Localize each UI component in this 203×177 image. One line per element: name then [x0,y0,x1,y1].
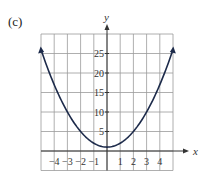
curve-arrow-right-icon [170,47,176,54]
x-axis-label: x [192,145,198,157]
x-tick-label: 4 [157,156,162,167]
y-tick-label: 15 [94,87,104,98]
y-axis-label: y [103,11,109,23]
x-tick-label: −1 [88,156,99,167]
x-tick-label: 1 [118,156,123,167]
y-tick-label: 5 [99,126,104,137]
parabola-chart: xy−4−3−2−11234510152025 [0,0,203,177]
y-tick-label: 25 [94,48,104,59]
x-tick-label: 3 [144,156,149,167]
curve-arrow-left-icon [38,47,44,54]
y-tick-label: 10 [94,107,104,118]
x-tick-label: −3 [62,156,73,167]
y-tick-label: 20 [94,68,104,79]
x-tick-label: 2 [131,156,136,167]
x-tick-label: −2 [75,156,86,167]
y-axis-arrow-icon [105,24,110,30]
x-tick-label: −4 [49,156,60,167]
x-axis-arrow-icon [183,149,189,154]
